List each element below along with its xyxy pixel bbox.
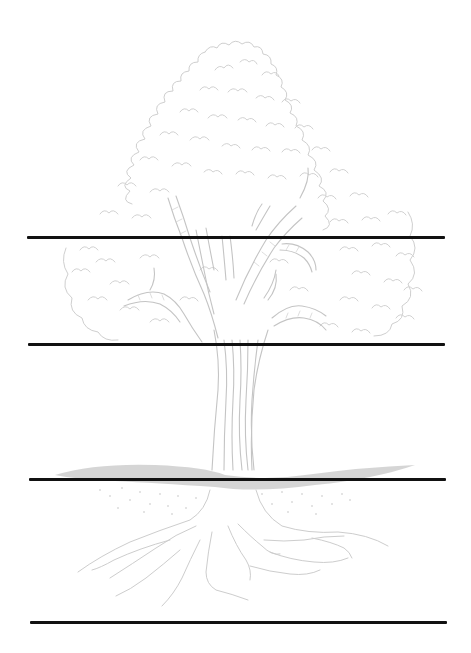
divider-line-2: [28, 343, 445, 346]
tree-roots: [78, 490, 388, 606]
tree-canopy: [63, 41, 422, 340]
divider-line-4: [30, 621, 447, 624]
tree-worksheet: [0, 0, 471, 653]
tree-trunk: [212, 330, 268, 470]
divider-line-3: [29, 478, 446, 481]
ground: [55, 465, 415, 515]
divider-line-1: [27, 236, 445, 239]
tree-illustration: [0, 0, 471, 653]
ground-speckles: [99, 487, 351, 515]
